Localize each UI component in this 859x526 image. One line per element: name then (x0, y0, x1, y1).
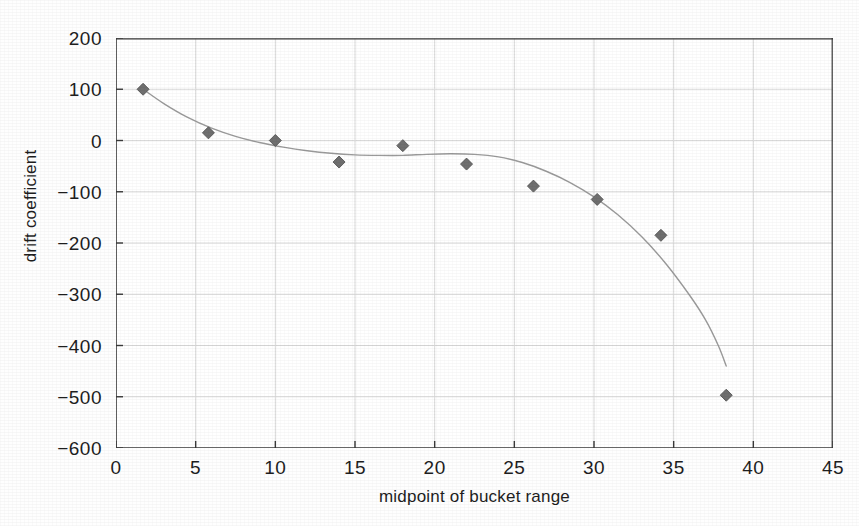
scan-top-artifact (68, 0, 408, 6)
chart-canvas: drift coefficient midpoint of bucket ran… (0, 0, 859, 526)
y-tick-label: 200 (30, 29, 102, 48)
data-point (461, 158, 473, 170)
gridlines (116, 38, 833, 448)
data-point (333, 156, 345, 168)
data-point (397, 140, 409, 152)
data-point (527, 180, 539, 192)
x-tick-label: 40 (723, 458, 783, 477)
y-tick-label: −300 (30, 285, 102, 304)
y-tick-label: −400 (30, 337, 102, 356)
y-tick-label: −500 (30, 388, 102, 407)
x-tick-label: 15 (325, 458, 385, 477)
data-point (655, 229, 667, 241)
x-tick-label: 45 (803, 458, 859, 477)
x-axis-tick-labels: 051015202530354045 (0, 458, 859, 486)
y-tick-label: 100 (30, 80, 102, 99)
y-tick-label: 0 (30, 132, 102, 151)
x-tick-label: 30 (564, 458, 624, 477)
x-tick-label: 20 (405, 458, 465, 477)
y-tick-label: −200 (30, 234, 102, 253)
plot-area (116, 38, 833, 448)
y-tick-label: −600 (30, 439, 102, 458)
data-point (591, 193, 603, 205)
x-tick-label: 25 (484, 458, 544, 477)
x-tick-label: 35 (644, 458, 704, 477)
x-axis-label: midpoint of bucket range (116, 487, 833, 507)
x-tick-label: 5 (166, 458, 226, 477)
y-tick-label: −100 (30, 183, 102, 202)
plot-svg (116, 38, 833, 448)
data-point (720, 389, 732, 401)
y-axis-tick-labels: 2001000−100−200−300−400−500−600 (28, 0, 102, 526)
data-point (137, 83, 149, 95)
x-tick-label: 10 (245, 458, 305, 477)
x-tick-label: 0 (86, 458, 146, 477)
